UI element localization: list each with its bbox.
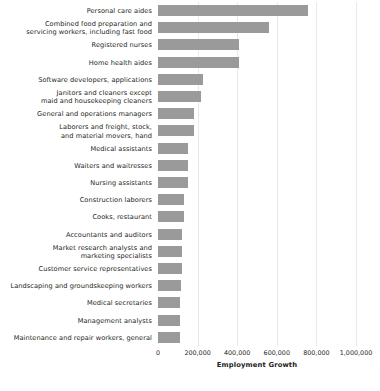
category-label: Janitors and cleaners exceptmaid and hou… <box>0 89 152 105</box>
bar-row <box>158 329 356 346</box>
bar <box>158 143 188 154</box>
bar <box>158 125 194 136</box>
bar <box>158 229 182 240</box>
category-label: Cooks, restaurant <box>0 213 152 221</box>
category-axis-labels: Personal care aidesCombined food prepara… <box>0 2 152 346</box>
bar-row <box>158 226 356 243</box>
category-label: Medical assistants <box>0 145 152 153</box>
bar-row <box>158 294 356 311</box>
bar-row <box>158 208 356 225</box>
bar <box>158 297 180 308</box>
category-label: Landscaping and groundskeeping workers <box>0 282 152 290</box>
bar-row <box>158 243 356 260</box>
bar-row <box>158 191 356 208</box>
bar-row <box>158 157 356 174</box>
bar <box>158 5 308 16</box>
bar <box>158 263 182 274</box>
category-label: General and operations managers <box>0 110 152 118</box>
x-tick-label: 400,000 <box>224 349 250 357</box>
bar-row <box>158 105 356 122</box>
bar <box>158 246 182 257</box>
x-tick-label: 200,000 <box>184 349 210 357</box>
bar-row <box>158 122 356 139</box>
x-tick-label: 1,000,000 <box>340 349 373 357</box>
employment-growth-bar-chart: Personal care aidesCombined food prepara… <box>0 0 380 391</box>
bar <box>158 211 184 222</box>
bar-row <box>158 19 356 36</box>
category-label: Construction laborers <box>0 196 152 204</box>
bar-row <box>158 277 356 294</box>
category-label: Nursing assistants <box>0 179 152 187</box>
bar-row <box>158 36 356 53</box>
bar-row <box>158 54 356 71</box>
bar-row <box>158 260 356 277</box>
category-label: Waiters and waitresses <box>0 162 152 170</box>
bar <box>158 22 269 33</box>
category-label: Combined food preparation andservicing w… <box>0 20 152 36</box>
x-axis-title: Employment Growth <box>158 361 356 369</box>
category-label: Accountants and auditors <box>0 231 152 239</box>
x-tick-label: 0 <box>156 349 160 357</box>
category-label: Software developers, applications <box>0 76 152 84</box>
bar <box>158 315 180 326</box>
x-tick-label: 800,000 <box>303 349 329 357</box>
bar <box>158 280 181 291</box>
bar <box>158 160 188 171</box>
category-label: Laborers and freight, stock,and material… <box>0 123 152 139</box>
category-label: Market research analysts andmarketing sp… <box>0 244 152 260</box>
bar <box>158 39 239 50</box>
bar-row <box>158 312 356 329</box>
bar-row <box>158 88 356 105</box>
category-label: Management analysts <box>0 317 152 325</box>
bar <box>158 332 180 343</box>
category-label: Home health aides <box>0 59 152 67</box>
category-label: Registered nurses <box>0 41 152 49</box>
bar <box>158 194 184 205</box>
x-axis-ticks: 0200,000400,000600,000800,0001,000,000 <box>158 349 356 361</box>
bar-row <box>158 140 356 157</box>
bar <box>158 91 201 102</box>
x-tick-label: 600,000 <box>264 349 290 357</box>
bar-row <box>158 174 356 191</box>
bar <box>158 108 194 119</box>
bar <box>158 74 203 85</box>
bar <box>158 57 239 68</box>
plot-area <box>158 2 356 346</box>
category-label: Personal care aides <box>0 7 152 15</box>
category-label: Customer service representatives <box>0 265 152 273</box>
category-label: Maintenance and repair workers, general <box>0 334 152 342</box>
category-label: Medical secretaries <box>0 299 152 307</box>
gridline <box>356 2 357 346</box>
bar <box>158 177 188 188</box>
bar-row <box>158 71 356 88</box>
bar-row <box>158 2 356 19</box>
